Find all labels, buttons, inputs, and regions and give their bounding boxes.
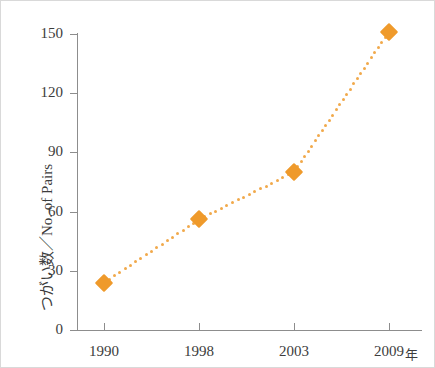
chart-figure: つがい数／No. of Pairs 1501209060300 19901998…	[0, 0, 435, 368]
line-dot	[237, 198, 240, 201]
line-dot	[276, 179, 279, 182]
line-dot	[182, 229, 185, 232]
line-dot	[317, 134, 320, 137]
line-dot	[303, 155, 306, 158]
line-dot	[349, 88, 352, 91]
line-dot	[253, 190, 256, 193]
line-dot	[139, 257, 142, 260]
line-dot	[134, 260, 137, 263]
line-dot	[161, 243, 164, 246]
line-dot	[335, 108, 338, 111]
line-dot	[338, 103, 341, 106]
line-dot	[380, 41, 383, 44]
line-dot	[307, 150, 310, 153]
line-dot	[314, 139, 317, 142]
line-dot	[113, 274, 116, 277]
line-dot	[145, 253, 148, 256]
line-dot	[124, 267, 127, 270]
line-dot	[356, 77, 359, 80]
line-dot	[259, 187, 262, 190]
data-point-marker[interactable]	[380, 23, 398, 41]
line-dot	[220, 207, 223, 210]
line-dot	[265, 185, 268, 188]
line-dot	[363, 67, 366, 70]
line-dot	[118, 271, 121, 274]
line-dot	[270, 182, 273, 185]
data-point-marker[interactable]	[95, 273, 113, 291]
line-dot	[300, 160, 303, 163]
line-dot	[281, 176, 284, 179]
line-dot	[359, 72, 362, 75]
line-dot	[331, 114, 334, 117]
line-dot	[171, 236, 174, 239]
series-no-of-pairs	[1, 1, 435, 368]
data-point-marker[interactable]	[190, 210, 208, 228]
line-dot	[324, 124, 327, 127]
line-dot	[345, 93, 348, 96]
line-dot	[166, 239, 169, 242]
line-dot	[225, 204, 228, 207]
line-dot	[370, 56, 373, 59]
line-dot	[366, 62, 369, 65]
line-dot	[155, 246, 158, 249]
line-dot	[209, 212, 212, 215]
line-dot	[248, 193, 251, 196]
line-dot	[150, 250, 153, 253]
line-dot	[373, 51, 376, 54]
line-dot	[242, 196, 245, 199]
line-dot	[321, 129, 324, 132]
data-point-marker[interactable]	[285, 163, 303, 181]
line-dot	[231, 201, 234, 204]
line-dot	[352, 82, 355, 85]
line-dot	[129, 264, 132, 267]
line-dot	[328, 119, 331, 122]
line-dot	[187, 225, 190, 228]
line-dot	[176, 232, 179, 235]
line-dot	[342, 98, 345, 101]
line-dot	[377, 46, 380, 49]
line-dot	[214, 210, 217, 213]
line-dot	[310, 145, 313, 148]
